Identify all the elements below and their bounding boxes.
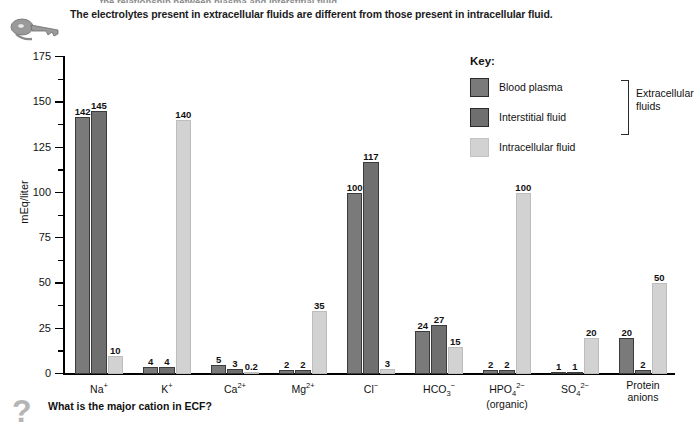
question-text: What is the major cation in ECF?	[48, 400, 212, 412]
bar-group: 1001173	[347, 56, 395, 374]
bar[interactable]: 3	[380, 369, 396, 374]
y-axis-tick-label: 25	[39, 322, 51, 334]
legend-item-label: Interstitial fluid	[499, 111, 566, 123]
bar-value-label: 20	[621, 327, 632, 338]
bar-value-label: 20	[586, 327, 597, 338]
bracket-label-line1: Extracellular	[636, 87, 694, 99]
bar[interactable]: 4	[143, 367, 159, 374]
y-axis-minor-tick	[58, 350, 64, 351]
legend-item-label: Blood plasma	[499, 81, 563, 93]
bar-value-label: 4	[164, 356, 169, 367]
bar[interactable]: 27	[431, 325, 447, 374]
y-axis-tick-label: 125	[33, 141, 51, 153]
y-axis-minor-tick	[58, 260, 64, 261]
bar-value-label: 2	[488, 359, 493, 370]
legend-item[interactable]: Intracellular fluid	[470, 136, 680, 158]
legend-swatch-blood-plasma	[470, 78, 489, 97]
y-axis-major-tick	[55, 147, 64, 148]
x-axis-category-label: Cl−	[364, 380, 378, 395]
x-axis-category-label: HCO3−	[423, 380, 455, 399]
x-axis-category-label: SO42−	[561, 380, 589, 399]
bar[interactable]: 2	[295, 370, 311, 374]
bar[interactable]: 117	[363, 162, 379, 374]
bar[interactable]: 100	[347, 193, 363, 374]
y-axis-minor-tick	[58, 124, 64, 125]
question-mark-icon: ?	[6, 393, 42, 429]
bar-value-label: 2	[300, 359, 305, 370]
bracket-label-line2: fluids	[636, 100, 661, 112]
y-axis-tick-label: 175	[33, 50, 51, 62]
bar[interactable]: 50	[652, 283, 668, 374]
legend-swatch-interstitial-fluid	[470, 108, 489, 127]
bar[interactable]: 1	[567, 372, 583, 374]
bar[interactable]: 0.2	[244, 372, 260, 374]
bar[interactable]: 2	[635, 370, 651, 374]
y-axis-major-tick	[55, 56, 64, 57]
bar[interactable]: 140	[176, 120, 192, 374]
bar-group: 2235	[279, 56, 327, 374]
bar-value-label: 117	[363, 151, 378, 162]
bar-value-label: 4	[148, 356, 153, 367]
bar-value-label: 27	[434, 314, 445, 325]
bar[interactable]: 10	[108, 356, 124, 374]
bar-group: 14214510	[75, 56, 123, 374]
bar-group: 530.2	[211, 56, 259, 374]
bar[interactable]: 2	[483, 370, 499, 374]
y-axis-tick-label: 150	[33, 95, 51, 107]
bar[interactable]: 142	[75, 117, 91, 374]
y-axis-minor-tick	[58, 215, 64, 216]
legend-swatch-intracellular-fluid	[470, 138, 489, 157]
bar-value-label: 100	[347, 182, 363, 193]
bar-value-label: 100	[515, 182, 531, 193]
bar[interactable]: 2	[279, 370, 295, 374]
bar-value-label: 2	[284, 359, 289, 370]
x-axis-category-label: K+	[161, 380, 172, 395]
bar-value-label: 2	[504, 359, 509, 370]
y-axis-major-tick	[55, 282, 64, 283]
bar-value-label: 50	[654, 272, 665, 283]
bar[interactable]: 20	[584, 338, 600, 374]
bar-value-label: 5	[216, 354, 221, 365]
x-axis-category-label: Ca2+	[224, 380, 246, 395]
y-axis-major-tick	[55, 373, 64, 374]
x-axis-category-label: HPO42−(organic)	[486, 380, 527, 411]
bar-value-label: 145	[91, 100, 107, 111]
bar-value-label: 1	[572, 361, 577, 372]
bar[interactable]: 1	[551, 372, 567, 374]
bar[interactable]: 4	[159, 367, 175, 374]
bar-value-label: 142	[75, 106, 91, 117]
y-axis-tick-label: 0	[45, 367, 51, 379]
y-axis-minor-tick	[58, 169, 64, 170]
bar-value-label: 1	[556, 361, 561, 372]
x-axis-category-label: Mg2+	[291, 380, 314, 395]
bar-value-label: 2	[640, 359, 645, 370]
bar[interactable]: 20	[619, 338, 635, 374]
extracellular-bracket	[621, 80, 629, 135]
bar-value-label: 3	[385, 358, 390, 369]
bar[interactable]: 35	[312, 311, 328, 374]
y-axis-minor-tick	[58, 305, 64, 306]
y-axis-minor-tick	[58, 79, 64, 80]
bar[interactable]: 15	[448, 347, 464, 374]
bar[interactable]: 145	[91, 111, 107, 374]
y-axis-tick-label: 75	[39, 231, 51, 243]
y-axis-major-tick	[55, 237, 64, 238]
y-axis-major-tick	[55, 192, 64, 193]
bar[interactable]: 2	[499, 370, 515, 374]
x-axis-category-label: Na+	[90, 380, 108, 395]
bar-group: 242715	[415, 56, 463, 374]
bar-value-label: 140	[175, 109, 191, 120]
y-axis-tick-label: 100	[33, 186, 51, 198]
bar-value-label: 24	[417, 320, 428, 331]
y-axis-major-tick	[55, 328, 64, 329]
bar[interactable]: 3	[227, 369, 243, 374]
bar[interactable]: 100	[516, 193, 532, 374]
legend-item-label: Intracellular fluid	[499, 141, 575, 153]
extracellular-bracket-label: Extracellular fluids	[636, 87, 694, 113]
y-axis-tick-label: 50	[39, 276, 51, 288]
bar[interactable]: 5	[211, 365, 227, 374]
bar-value-label: 15	[450, 336, 461, 347]
bar[interactable]: 24	[415, 331, 431, 374]
y-axis-title: mEq/liter	[18, 162, 30, 242]
chart-legend: Key: Blood plasmaInterstitial fluidIntra…	[470, 55, 680, 166]
